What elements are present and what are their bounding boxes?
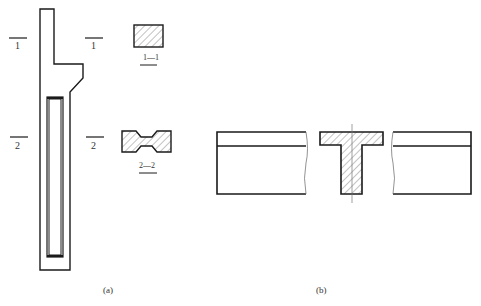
svg-text:1: 1 [15,40,20,51]
svg-text:2—2: 2—2 [139,161,155,170]
section-mark-2-right: 2 [86,137,104,151]
break-line-icon [392,132,395,194]
section-mark-2-left: 2 [10,137,28,151]
svg-text:2: 2 [91,140,96,151]
section-mark-1-left: 1 [9,38,27,51]
section-2-2: 2—2 [122,131,171,173]
section-mark-1-right: 1 [85,38,103,51]
beam-elevation-left [217,132,308,194]
caption-a: (a) [103,285,113,295]
column-elevation [40,9,83,270]
svg-text:1—1: 1—1 [143,53,159,62]
beam-elevation-right [392,132,472,194]
section-1-1: 1—1 [134,25,163,65]
svg-text:2: 2 [15,140,20,151]
caption-b: (b) [316,285,327,295]
break-line-icon [305,132,308,194]
figure-canvas: 1 1 2 2 1—1 2—2 (a) (b) [0,0,481,306]
svg-text:1: 1 [91,40,96,51]
t-beam-section [320,124,383,203]
